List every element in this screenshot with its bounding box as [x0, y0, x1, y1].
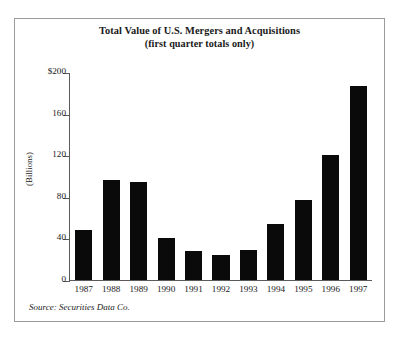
x-tick-label: 1988	[97, 284, 124, 294]
x-tick-label: 1996	[317, 284, 344, 294]
bar-group: 1989	[125, 72, 152, 280]
title-block: Total Value of U.S. Mergers and Acquisit…	[15, 25, 384, 50]
bar-group: 1988	[97, 72, 124, 280]
x-tick-label: 1997	[345, 284, 372, 294]
y-tick-label: 80	[57, 191, 66, 201]
bar-group: 1992	[207, 72, 234, 280]
page-title: Total Value of U.S. Mergers and Acquisit…	[15, 25, 384, 38]
bar	[295, 200, 312, 280]
bar	[103, 180, 120, 280]
y-tick-label: 160	[52, 108, 66, 118]
x-tick-label: 1990	[152, 284, 179, 294]
y-tick-label: 120	[52, 149, 66, 159]
bar	[75, 230, 92, 280]
source-note: Source: Securities Data Co.	[29, 302, 130, 312]
bar-group: 1991	[180, 72, 207, 280]
bar	[267, 224, 284, 280]
bar-group: 1996	[317, 72, 344, 280]
y-axis-label: (Billions)	[24, 129, 34, 209]
bar-group: 1997	[345, 72, 372, 280]
x-tick-label: 1987	[70, 284, 97, 294]
bar-group: 1993	[235, 72, 262, 280]
y-tick-label: $200	[48, 66, 66, 76]
x-tick-label: 1992	[207, 284, 234, 294]
x-tick-label: 1989	[125, 284, 152, 294]
bar	[158, 238, 175, 280]
y-tick-label: 40	[57, 232, 66, 242]
chart-subtitle: (first quarter totals only)	[15, 38, 384, 50]
bar	[240, 250, 257, 280]
bar-group: 1995	[290, 72, 317, 280]
bar	[130, 182, 147, 280]
bar	[350, 86, 367, 280]
x-tick-label: 1991	[180, 284, 207, 294]
bar-series: 1987198819891990199119921993199419951996…	[70, 72, 372, 280]
bar	[212, 255, 229, 280]
x-tick-label: 1995	[290, 284, 317, 294]
plot-area: 04080120160$200 198719881989199019911992…	[69, 73, 372, 281]
bar-group: 1990	[152, 72, 179, 280]
x-tick-label: 1993	[235, 284, 262, 294]
y-tick-label: 0	[61, 274, 66, 284]
bar	[185, 251, 202, 280]
bar	[322, 155, 339, 280]
bar-group: 1987	[70, 72, 97, 280]
x-tick-label: 1994	[262, 284, 289, 294]
bar-group: 1994	[262, 72, 289, 280]
chart-figure: Total Value of U.S. Mergers and Acquisit…	[14, 18, 385, 322]
x-axis-line	[69, 280, 372, 281]
